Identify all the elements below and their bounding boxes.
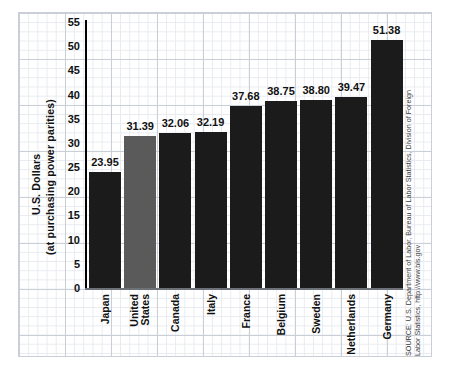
bar-value-label: 39.47 <box>329 82 373 93</box>
bar-japan[interactable] <box>89 172 121 288</box>
bar-group: 31.39 <box>124 0 156 288</box>
bar-group: 38.80 <box>300 0 332 288</box>
category-label-france: France <box>230 294 262 354</box>
category-label-text: Canada <box>170 294 181 332</box>
source-note: SOURCE: U.S. Department of Labor, Bureau… <box>404 86 422 356</box>
category-label-belgium: Belgium <box>265 294 297 354</box>
y-tick-label: 50 <box>50 41 80 52</box>
bar-group: 37.68 <box>230 0 262 288</box>
category-label-text: Japan <box>100 294 111 324</box>
category-label-netherlands: Netherlands <box>335 294 367 354</box>
category-label-text: Sweden <box>311 294 322 334</box>
category-label-text: Belgium <box>276 294 287 335</box>
bar-netherlands[interactable] <box>335 97 367 288</box>
category-label-text: UnitedStates <box>129 294 151 352</box>
bar-group: 39.47 <box>335 0 367 288</box>
bar-germany[interactable] <box>371 40 403 288</box>
bar-canada[interactable] <box>159 133 191 288</box>
bar-group: 51.38 <box>371 0 403 288</box>
x-axis-line <box>85 288 403 290</box>
category-label-text: France <box>240 294 251 328</box>
bar-chart-figure: 5550454035302520151050 U.S. Dollars (at … <box>0 0 452 377</box>
bar-value-label: 32.19 <box>189 117 233 128</box>
y-tick-label: 5 <box>50 258 80 269</box>
y-axis-title: U.S. Dollars <box>30 154 42 215</box>
y-tick-label: 45 <box>50 65 80 76</box>
bar-group: 38.75 <box>265 0 297 288</box>
bar-value-label: 51.38 <box>365 25 409 36</box>
bar-united-states[interactable] <box>124 136 156 288</box>
category-label-text: Italy <box>205 294 216 315</box>
bar-italy[interactable] <box>195 132 227 288</box>
bar-group: 32.19 <box>195 0 227 288</box>
bar-group: 32.06 <box>159 0 191 288</box>
category-label-text: Netherlands <box>346 294 357 355</box>
y-axis-subtitle: (at purchasing power parities) <box>44 99 56 255</box>
category-label-united-states: UnitedStates <box>124 294 156 354</box>
bar-belgium[interactable] <box>265 101 297 288</box>
y-tick-label: 0 <box>50 283 80 294</box>
category-label-italy: Italy <box>195 294 227 354</box>
bar-sweden[interactable] <box>300 100 332 288</box>
category-label-germany: Germany <box>371 294 403 354</box>
bar-group: 23.95 <box>89 0 121 288</box>
category-label-sweden: Sweden <box>300 294 332 354</box>
bar-value-label: 23.95 <box>83 157 127 168</box>
category-label-japan: Japan <box>89 294 121 354</box>
category-label-text: Germany <box>381 294 392 340</box>
category-label-canada: Canada <box>159 294 191 354</box>
y-tick-label: 55 <box>50 17 80 28</box>
bar-france[interactable] <box>230 106 262 288</box>
